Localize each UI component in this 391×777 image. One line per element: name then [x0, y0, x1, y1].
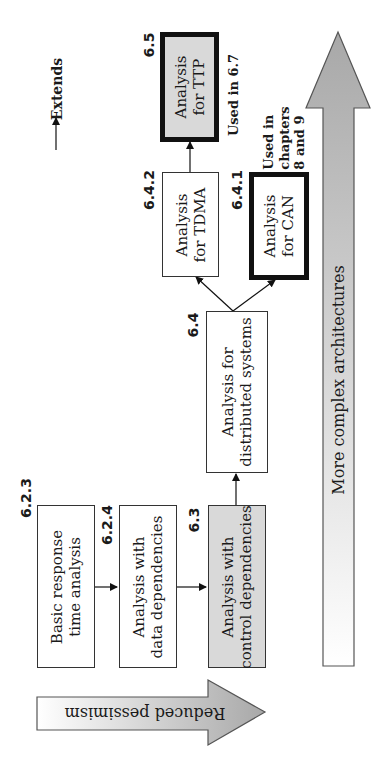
label-6-4-2: 6.4.2 — [140, 170, 158, 210]
box-tdma-line2: for TDMA — [191, 187, 209, 262]
box-tdma-line1: Analysis — [173, 187, 191, 262]
legend: Extends — [42, 60, 72, 118]
box-distributed-line2: distributed systems — [237, 317, 255, 466]
complexity-arrow-label: More complex architectures — [323, 230, 354, 530]
box-control-dependencies: Analysis with control dependencies — [208, 505, 266, 668]
box-analysis-ttp: Analysis for TTP — [160, 32, 219, 142]
box-control-line2: control dependencies — [237, 505, 255, 668]
box-ttp-line1: Analysis — [172, 56, 190, 119]
label-6-4-1: 6.4.1 — [228, 170, 246, 210]
label-6-2-4: 6.2.4 — [98, 505, 116, 545]
legend-extends-label: Extends — [49, 58, 66, 120]
label-6-3: 6.3 — [185, 505, 203, 535]
box-can-line1: Analysis — [261, 195, 279, 258]
box-data-line1: Analysis with — [130, 515, 148, 658]
box-analysis-can: Analysis for CAN — [249, 172, 309, 280]
box-basic-response-time: Basic response time analysis — [37, 505, 95, 668]
label-6-5: 6.5 — [140, 30, 158, 60]
box-basic-line1: Basic response — [48, 529, 66, 643]
box-can-line2: for CAN — [279, 195, 297, 258]
box-analysis-tdma: Analysis for TDMA — [162, 172, 219, 277]
pessimism-arrow-label: Reduced pessimism — [60, 700, 230, 728]
note-used-in-chapters: Used in chapters 8 and 9 — [258, 108, 310, 168]
box-basic-line2: time analysis — [66, 529, 84, 643]
box-distributed-line1: Analysis for — [219, 317, 237, 466]
box-data-line2: data dependencies — [148, 515, 166, 658]
label-6-4: 6.4 — [184, 310, 202, 340]
label-6-2-3: 6.2.3 — [17, 478, 35, 518]
box-analysis-distributed: Analysis for distributed systems — [206, 311, 268, 473]
note-used-in-6-7: Used in 6.7 — [225, 50, 243, 140]
box-data-dependencies: Analysis with data dependencies — [119, 505, 177, 668]
box-control-line1: Analysis with — [219, 505, 237, 668]
box-ttp-line2: for TTP — [190, 56, 208, 119]
